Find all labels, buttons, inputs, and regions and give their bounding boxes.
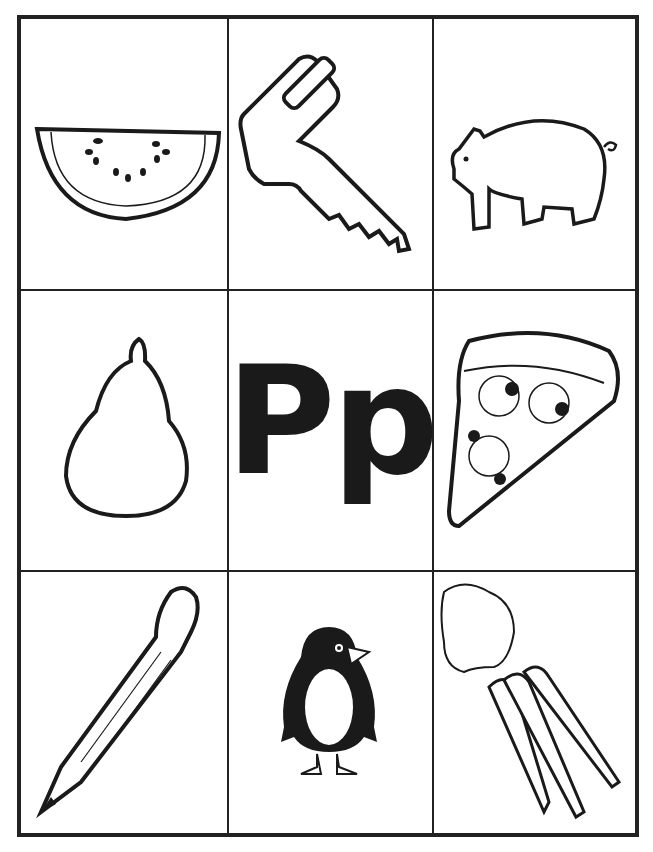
carrots-icon [434,572,639,837]
pig-icon [434,19,639,289]
watermelon-icon [21,19,227,289]
cell-pizza [434,291,639,570]
cell-penguin [229,572,432,837]
pencil-icon [21,572,227,837]
key-icon [229,19,432,289]
cell-letter: Pp [229,291,432,570]
worksheet-grid: Pp [17,15,639,837]
cell-pig [434,19,639,289]
cell-pencil [21,572,227,837]
letter-display: Pp [226,346,435,496]
cell-carrots [434,572,639,837]
penguin-icon [229,572,432,837]
cell-pear [21,291,227,570]
cell-key [229,19,432,289]
cell-watermelon [21,19,227,289]
pizza-icon [434,291,639,570]
pear-icon [21,291,227,570]
